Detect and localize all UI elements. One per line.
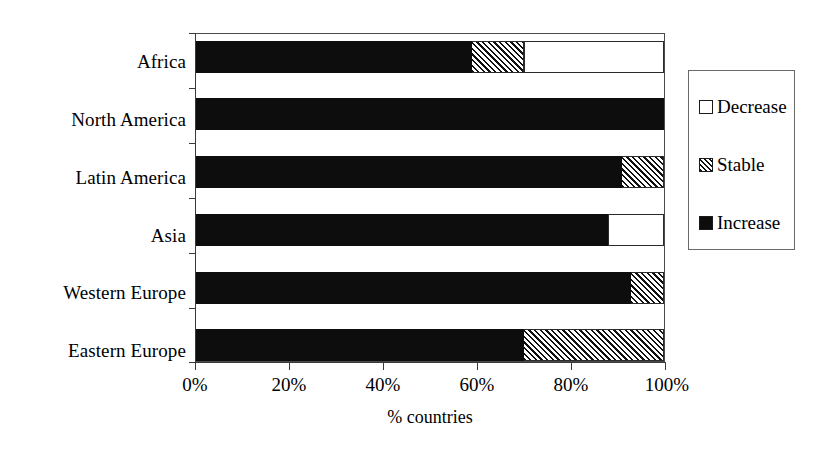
- x-axis-tick-label: 100%: [622, 374, 712, 396]
- bar-segment-increase: [196, 41, 472, 73]
- bar-segment-stable: [622, 156, 664, 188]
- y-axis-label-africa: Africa: [0, 52, 186, 71]
- chart-legend: Decrease Stable Increase: [688, 70, 795, 250]
- bar-segment-increase: [196, 272, 631, 304]
- legend-label-stable: Stable: [717, 155, 765, 174]
- x-axis-tick: [571, 362, 572, 370]
- plot-area: [195, 33, 665, 362]
- legend-swatch-stable-icon: [699, 158, 713, 172]
- bar-segment-increase: [196, 214, 608, 246]
- legend-swatch-increase-icon: [699, 216, 713, 230]
- bar-row: [196, 214, 664, 246]
- x-axis-tick: [195, 362, 196, 370]
- y-axis-tick: [189, 88, 196, 89]
- bar-row: [196, 272, 664, 304]
- y-axis-tick: [189, 33, 196, 34]
- y-axis-label-eastern-europe: Eastern Europe: [0, 341, 186, 360]
- legend-label-increase: Increase: [717, 213, 780, 232]
- bar-segment-increase: [196, 98, 664, 130]
- x-axis-line: [195, 362, 666, 363]
- legend-swatch-decrease-icon: [699, 100, 713, 114]
- x-axis-tick-label: 0%: [150, 374, 240, 396]
- x-axis-tick-label: 20%: [244, 374, 334, 396]
- legend-item-decrease: Decrease: [699, 97, 787, 116]
- x-axis-tick-label: 40%: [338, 374, 428, 396]
- bar-row: [196, 329, 664, 361]
- bar-segment-stable: [631, 272, 664, 304]
- legend-label-decrease: Decrease: [717, 97, 787, 116]
- x-axis-tick: [383, 362, 384, 370]
- x-axis-tick: [289, 362, 290, 370]
- x-axis-title: % countries: [195, 406, 665, 428]
- bar-row: [196, 98, 664, 130]
- legend-item-increase: Increase: [699, 213, 780, 232]
- bar-row: [196, 41, 664, 73]
- x-axis-tick: [477, 362, 478, 370]
- stacked-bar-chart: Africa North America Latin America Asia …: [0, 0, 837, 461]
- y-axis-tick: [189, 143, 196, 144]
- x-axis-tick-label: 80%: [526, 374, 616, 396]
- bar-segment-increase: [196, 329, 524, 361]
- bar-segment-increase: [196, 156, 622, 188]
- bar-segment-stable: [524, 329, 664, 361]
- bar-segment-decrease: [524, 41, 664, 73]
- x-axis-tick-label: 60%: [432, 374, 522, 396]
- bar-row: [196, 156, 664, 188]
- legend-item-stable: Stable: [699, 155, 765, 174]
- y-axis-label-north-america: North America: [0, 110, 186, 129]
- y-axis-label-asia: Asia: [0, 226, 186, 245]
- y-axis-tick: [189, 198, 196, 199]
- y-axis-label-western-europe: Western Europe: [0, 283, 186, 302]
- bar-segment-decrease: [608, 214, 664, 246]
- x-axis-tick: [665, 362, 666, 370]
- y-axis-label-latin-america: Latin America: [0, 168, 186, 187]
- bar-segment-stable: [472, 41, 523, 73]
- y-axis-tick: [189, 253, 196, 254]
- y-axis-tick: [189, 308, 196, 309]
